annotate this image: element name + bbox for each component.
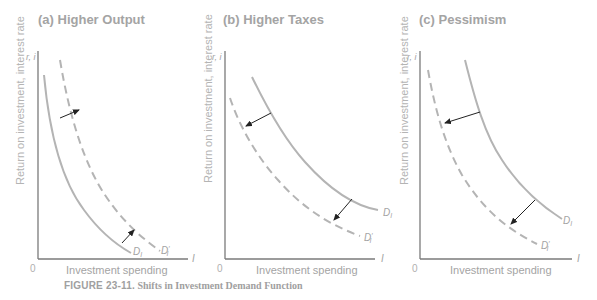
- label-di-prime: D′I: [541, 240, 550, 252]
- shift-arrow-lower: [511, 200, 535, 224]
- shift-arrow-upper: [445, 112, 480, 123]
- x-axis-symbol: I: [577, 253, 580, 264]
- curve-di: [252, 77, 378, 210]
- y-axis-symbol: r, i: [26, 52, 37, 62]
- shift-arrow-lower: [122, 230, 134, 243]
- curve-di-prime: [230, 98, 360, 236]
- panel-b: r, i I 0 Investment spending Return on i…: [202, 14, 392, 276]
- curve-di-prime: [60, 60, 160, 251]
- x-axis-label: Investment spending: [256, 264, 358, 276]
- x-axis-symbol: I: [381, 253, 384, 264]
- shift-arrow-upper: [60, 110, 79, 118]
- figure-caption: FIGURE 23-11. Shifts in Investment Deman…: [64, 280, 303, 291]
- shift-arrow-upper: [246, 113, 271, 126]
- curve-di-prime: [428, 70, 537, 244]
- y-axis-label: Return on investment, interest rate: [202, 14, 214, 183]
- x-axis-label: Investment spending: [450, 264, 552, 276]
- panel-a: r, i I 0 Investment spending Return on i…: [14, 16, 195, 276]
- curve-di: [465, 60, 562, 219]
- label-di: DI: [133, 246, 142, 258]
- label-di: DI: [563, 215, 572, 227]
- x-axis-symbol: I: [192, 253, 195, 264]
- shift-arrow-lower: [334, 199, 352, 220]
- origin-label: 0: [217, 263, 223, 274]
- origin-label: 0: [412, 263, 418, 274]
- label-di: DI: [383, 207, 392, 219]
- figure-charts: r, i I 0 Investment spending Return on i…: [0, 0, 597, 300]
- y-axis-label: Return on investment, interest rate: [14, 16, 26, 185]
- y-axis-label: Return on investment, interest rate: [398, 16, 410, 185]
- figure-number: FIGURE 23-11.: [64, 280, 135, 291]
- x-axis-label: Investment spending: [66, 264, 168, 276]
- figure-title: Shifts in Investment Demand Function: [137, 280, 302, 291]
- label-di-prime: D′I: [161, 245, 170, 257]
- label-di-prime: D′I: [364, 232, 373, 244]
- panel-c: r, i I 0 Investment spending Return on i…: [398, 16, 580, 276]
- origin-label: 0: [30, 263, 36, 274]
